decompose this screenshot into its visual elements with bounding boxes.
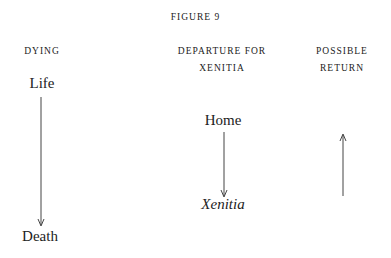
arrow-life-to-death [38,97,44,226]
arrows-layer [0,0,391,258]
arrow-possible-return-up [340,134,346,196]
arrow-home-to-xenitia [221,132,227,197]
